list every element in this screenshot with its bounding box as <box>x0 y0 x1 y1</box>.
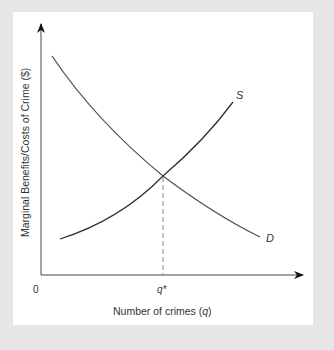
d-curve-label: D <box>266 232 274 244</box>
x-axis-label: Number of crimes (q) <box>113 305 212 317</box>
qstar-tick-label: q* <box>157 284 168 295</box>
y-axis-label: Marginal Benefits/Costs of Crime ($) <box>19 68 31 237</box>
supply-curve <box>60 102 233 239</box>
s-curve-label: S <box>236 89 244 101</box>
chart-svg: S D 0 q* Number of crimes (q) Marginal B… <box>0 0 334 350</box>
origin-label: 0 <box>33 284 39 295</box>
demand-curve <box>52 56 260 237</box>
